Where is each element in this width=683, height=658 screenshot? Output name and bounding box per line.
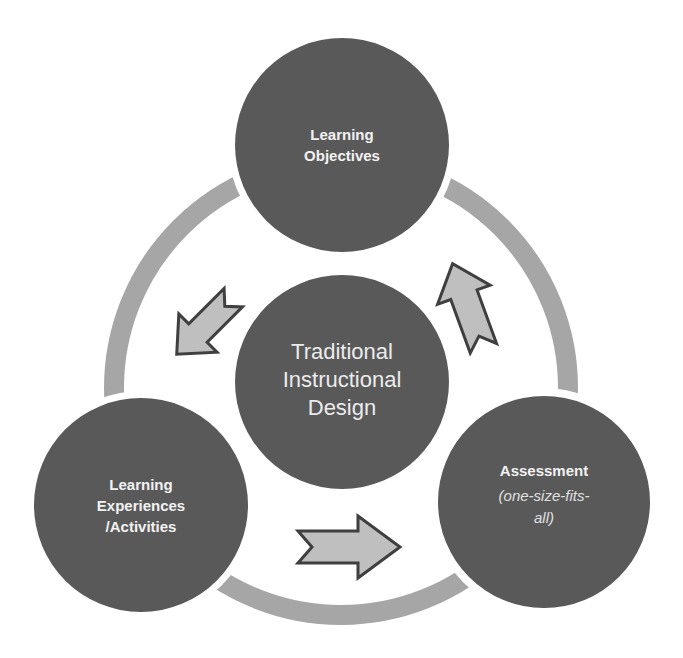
center-line-2: Instructional bbox=[283, 366, 402, 394]
arrow-right-icon bbox=[298, 516, 400, 578]
node-experiences-line-1: Learning bbox=[109, 474, 172, 495]
node-objectives-label: Learning Objectives bbox=[252, 105, 432, 185]
center-line-1: Traditional bbox=[291, 338, 393, 366]
node-experiences-line-3: /Activities bbox=[106, 516, 177, 537]
node-objectives-line-1: Learning bbox=[310, 124, 373, 145]
center-line-3: Design bbox=[308, 394, 376, 422]
node-assessment-subtitle-2: all) bbox=[534, 507, 554, 529]
node-assessment-title: Assessment bbox=[500, 460, 588, 481]
node-assessment-label: Assessment (one-size-fits- all) bbox=[454, 449, 634, 539]
cycle-diagram bbox=[0, 0, 683, 658]
node-experiences-label: Learning Experiences /Activities bbox=[51, 460, 231, 550]
node-assessment-subtitle-1: (one-size-fits- bbox=[499, 485, 590, 507]
center-label: Traditional Instructional Design bbox=[252, 330, 432, 430]
node-experiences-line-2: Experiences bbox=[97, 495, 185, 516]
node-objectives-line-2: Objectives bbox=[304, 145, 380, 166]
